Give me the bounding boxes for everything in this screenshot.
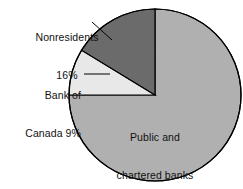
pie-label-bank-of-canada-line1: Bank of bbox=[3, 89, 81, 102]
pie-label-public-and-chartered-banks-line1: Public and bbox=[100, 131, 210, 144]
pie-chart-figure: Nonresidents 16% Bank of Canada 9% Publi… bbox=[0, 0, 243, 189]
pie-label-public-and-chartered-banks-line2: chartered banks bbox=[100, 169, 210, 182]
pie-label-nonresidents-line1: Nonresidents bbox=[27, 31, 107, 44]
pie-label-bank-of-canada: Bank of Canada 9% bbox=[3, 64, 81, 164]
pie-label-bank-of-canada-line2: Canada 9% bbox=[3, 127, 81, 140]
pie-label-public-and-chartered-banks: Public and chartered banks 75% bbox=[100, 106, 210, 189]
